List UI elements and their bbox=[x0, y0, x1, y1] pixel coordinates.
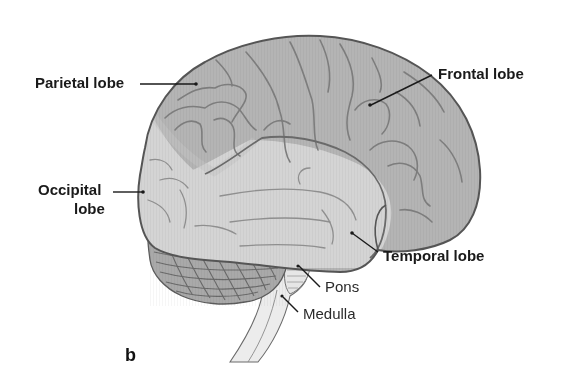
parietal-pointer-dot bbox=[194, 82, 198, 86]
frontal-lobe-label: Frontal lobe bbox=[438, 65, 524, 82]
pons-label: Pons bbox=[325, 278, 359, 295]
temporal-pointer-dot bbox=[350, 231, 354, 235]
label-medulla: Medulla bbox=[280, 294, 356, 322]
parietal-lobe-label: Parietal lobe bbox=[35, 74, 124, 91]
occipital-lobe-label-line2: lobe bbox=[74, 200, 105, 217]
cerebrum bbox=[130, 30, 490, 280]
pons-pointer-dot bbox=[296, 264, 299, 267]
frontal-pointer-dot bbox=[368, 103, 372, 107]
panel-label: b bbox=[125, 345, 136, 365]
brain-diagram: Parietal lobe Frontal lobe Occipital lob… bbox=[0, 0, 567, 383]
occipital-pointer-dot bbox=[141, 190, 145, 194]
medulla-pointer-dot bbox=[280, 294, 283, 297]
medulla-label: Medulla bbox=[303, 305, 356, 322]
occipital-lobe-label-line1: Occipital bbox=[38, 181, 101, 198]
label-occipital-lobe: Occipital lobe bbox=[38, 181, 145, 217]
temporal-lobe-label: Temporal lobe bbox=[383, 247, 484, 264]
